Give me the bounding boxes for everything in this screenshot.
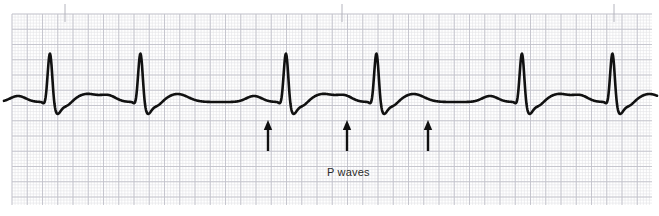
ecg-plot-area — [0, 0, 659, 216]
p-waves-annotation-label: P waves — [327, 166, 370, 178]
ecg-rhythm-strip-figure: P waves — [0, 0, 659, 216]
